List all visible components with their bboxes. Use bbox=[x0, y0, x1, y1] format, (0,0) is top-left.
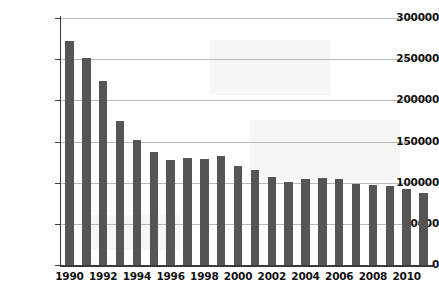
bar-chart: 050000100000150000200000250000300000 199… bbox=[0, 0, 439, 295]
bar bbox=[268, 177, 276, 265]
bar bbox=[234, 166, 242, 265]
x-axis-tick-label: 1996 bbox=[156, 270, 184, 282]
bars-layer bbox=[61, 18, 432, 265]
x-axis-tick-label: 1994 bbox=[123, 270, 151, 282]
bar bbox=[183, 158, 191, 265]
x-axis-tick-label: 1998 bbox=[190, 270, 218, 282]
bar bbox=[402, 189, 410, 265]
x-axis-tick-label: 2010 bbox=[392, 270, 420, 282]
bar bbox=[318, 178, 326, 265]
bar bbox=[335, 179, 343, 265]
x-axis-tick-label: 1990 bbox=[55, 270, 83, 282]
bar bbox=[369, 185, 377, 265]
y-axis-tick-mark bbox=[55, 265, 61, 266]
x-axis-tick-label: 2004 bbox=[291, 270, 319, 282]
bar bbox=[133, 140, 141, 265]
bar bbox=[251, 170, 259, 266]
bar bbox=[386, 186, 394, 265]
bar bbox=[166, 160, 174, 265]
bar bbox=[82, 58, 90, 265]
bar bbox=[99, 81, 107, 265]
bar bbox=[116, 121, 124, 265]
x-axis-tick-label: 2006 bbox=[325, 270, 353, 282]
x-axis-line bbox=[60, 265, 433, 267]
bar bbox=[284, 182, 292, 265]
bar bbox=[352, 184, 360, 265]
bar bbox=[301, 179, 309, 265]
x-axis-tick-label: 2000 bbox=[224, 270, 252, 282]
x-axis-tick-label: 2008 bbox=[359, 270, 387, 282]
x-axis-tick-label: 1992 bbox=[89, 270, 117, 282]
bar bbox=[200, 159, 208, 265]
bar bbox=[150, 152, 158, 265]
bar bbox=[419, 193, 427, 265]
x-axis-tick-label: 2002 bbox=[258, 270, 286, 282]
bar bbox=[65, 41, 73, 265]
bar bbox=[217, 156, 225, 266]
